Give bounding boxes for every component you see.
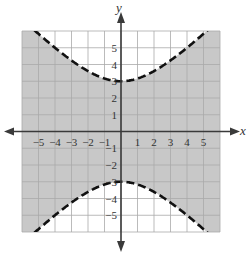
svg-text:−1: −1 xyxy=(105,142,117,154)
y-axis-label: y xyxy=(114,0,122,15)
svg-text:2: 2 xyxy=(151,136,157,148)
svg-text:5: 5 xyxy=(201,136,207,148)
svg-text:1: 1 xyxy=(112,109,118,121)
svg-text:−2: −2 xyxy=(105,159,117,171)
svg-text:−3: −3 xyxy=(66,136,78,148)
svg-text:1: 1 xyxy=(135,136,141,148)
svg-text:5: 5 xyxy=(112,42,118,54)
svg-text:−3: −3 xyxy=(105,176,117,188)
svg-text:−5: −5 xyxy=(33,136,45,148)
svg-text:−4: −4 xyxy=(49,136,61,148)
svg-text:−2: −2 xyxy=(82,136,94,148)
svg-text:−4: −4 xyxy=(105,193,117,205)
x-axis-label: x xyxy=(239,123,246,138)
svg-text:3: 3 xyxy=(112,75,118,87)
svg-text:−5: −5 xyxy=(105,209,117,221)
svg-text:4: 4 xyxy=(112,59,118,71)
svg-text:3: 3 xyxy=(168,136,174,148)
hyperbola-inequality-graph: −5−4−3−2−11234554321−1−2−3−4−5 x y xyxy=(0,0,252,257)
svg-text:2: 2 xyxy=(112,92,118,104)
svg-text:4: 4 xyxy=(184,136,190,148)
